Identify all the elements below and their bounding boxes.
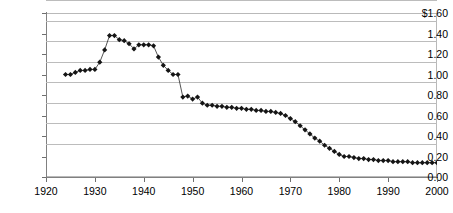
data-point-marker [92,67,97,72]
data-point-marker [420,160,425,165]
data-point-marker [146,42,151,47]
data-point-marker [175,72,180,77]
data-point-marker [405,159,410,164]
x-tick-label: 1920 [26,186,66,196]
data-point-marker [273,110,278,115]
data-point-marker [327,146,332,151]
data-point-marker [87,67,92,72]
data-point-marker [68,72,73,77]
series-markers [63,33,437,165]
data-point-marker [434,160,437,165]
data-point-marker [156,54,161,59]
data-point-marker [63,72,68,77]
data-point-marker [190,97,195,102]
x-tick-label: 1990 [368,186,408,196]
data-point-marker [102,47,107,52]
x-tick-label: 1960 [222,186,262,196]
data-point-marker [122,38,127,43]
data-point-marker [210,103,215,108]
x-tick-label: 1930 [75,186,115,196]
data-point-marker [371,157,376,162]
data-point-marker [395,159,400,164]
data-point-marker [332,149,337,154]
x-tick-label: 1940 [124,186,164,196]
data-point-marker [73,70,78,75]
data-point-marker [107,33,112,38]
data-point-marker [376,158,381,163]
data-series [46,13,437,177]
x-tick-mark [437,178,438,182]
data-point-marker [283,113,288,118]
x-tick-mark [193,178,194,182]
gridline [46,0,437,1]
x-tick-label: 1980 [319,186,359,196]
data-point-marker [288,116,293,121]
data-point-marker [278,111,283,116]
data-point-marker [141,42,146,47]
data-point-marker [400,159,405,164]
data-point-marker [249,107,254,112]
data-point-marker [83,68,88,73]
data-point-marker [356,156,361,161]
x-tick-label: 2000 [417,186,453,196]
x-tick-mark [144,178,145,182]
data-point-marker [366,157,371,162]
data-point-marker [390,159,395,164]
x-tick-label: 1970 [270,186,310,196]
data-point-marker [386,158,391,163]
data-point-marker [151,43,156,48]
data-point-marker [185,93,190,98]
data-point-marker [239,106,244,111]
data-point-marker [346,154,351,159]
series-line [66,36,437,163]
data-point-marker [361,156,366,161]
data-point-marker [234,106,239,111]
data-point-marker [342,154,347,159]
data-point-marker [97,60,102,65]
x-tick-mark [242,178,243,182]
data-point-marker [229,105,234,110]
data-point-marker [337,152,342,157]
data-point-marker [219,104,224,109]
data-point-marker [180,94,185,99]
data-point-marker [214,104,219,109]
data-point-marker [381,158,386,163]
data-point-marker [415,160,420,165]
x-tick-mark [339,178,340,182]
x-tick-mark [388,178,389,182]
x-tick-mark [290,178,291,182]
data-point-marker [351,155,356,160]
data-point-marker [254,108,259,113]
data-point-marker [78,68,83,73]
data-point-marker [430,160,435,165]
x-tick-mark [46,178,47,182]
data-point-marker [224,105,229,110]
data-point-marker [205,103,210,108]
data-point-marker [410,160,415,165]
data-point-marker [425,160,430,165]
data-point-marker [268,109,273,114]
data-point-marker [258,108,263,113]
data-point-marker [263,109,268,114]
x-tick-mark [95,178,96,182]
data-point-marker [244,107,249,112]
x-tick-label: 1950 [173,186,213,196]
